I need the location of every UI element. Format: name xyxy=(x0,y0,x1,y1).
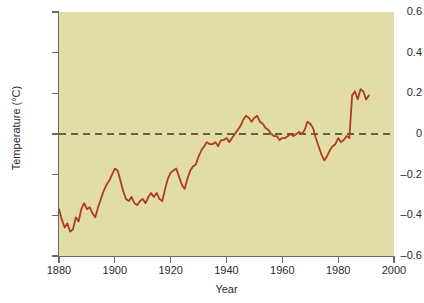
x-axis-tick xyxy=(338,257,339,263)
x-axis-tick xyxy=(393,257,394,263)
y-axis-tick xyxy=(52,133,59,134)
x-axis-tick xyxy=(282,257,283,263)
y-axis-title: Temperature (°C) xyxy=(10,68,22,188)
x-axis-tick xyxy=(226,257,227,263)
x-axis-tick xyxy=(170,257,171,263)
x-axis-tick-label: 1880 xyxy=(29,265,89,276)
data-layer xyxy=(59,12,394,256)
y-axis-tick-label: –0.2 xyxy=(376,169,422,180)
y-axis-tick-label: –0.6 xyxy=(376,250,422,261)
y-axis-tick xyxy=(52,215,59,216)
temperature-series-line xyxy=(59,89,369,231)
x-axis-tick-label: 1920 xyxy=(141,265,201,276)
x-axis-tick-label: 2000 xyxy=(364,265,424,276)
x-axis-tick xyxy=(58,257,59,263)
y-axis-tick xyxy=(52,93,59,94)
y-axis-tick-label: –0.4 xyxy=(376,209,422,220)
y-axis-tick xyxy=(52,11,59,12)
x-axis-tick-label: 1900 xyxy=(85,265,145,276)
y-axis-tick-label: 0 xyxy=(376,128,422,139)
x-axis-title: Year xyxy=(59,283,394,295)
y-axis-tick-label: 0.6 xyxy=(376,6,422,17)
x-axis-tick-label: 1940 xyxy=(197,265,257,276)
y-axis-tick-label: 0.2 xyxy=(376,87,422,98)
y-axis-tick-label: 0.4 xyxy=(376,47,422,58)
x-axis-tick-label: 1980 xyxy=(308,265,368,276)
x-axis-tick-label: 1960 xyxy=(252,265,312,276)
x-axis-tick xyxy=(114,257,115,263)
plot-area xyxy=(59,12,394,256)
y-axis-tick xyxy=(52,52,59,53)
y-axis-tick xyxy=(52,174,59,175)
